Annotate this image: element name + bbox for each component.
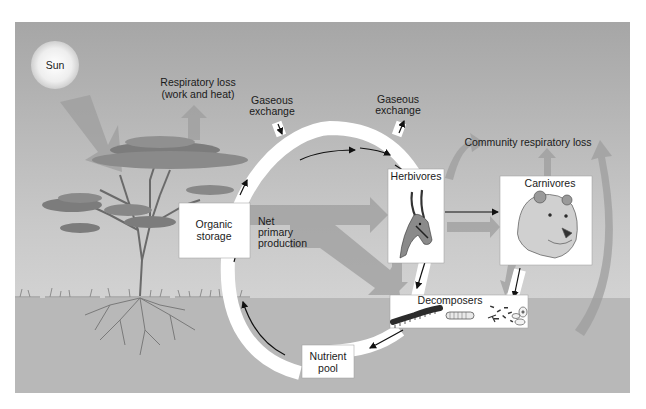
gaseous-exchange-right-label-2: exchange (375, 104, 421, 116)
net-primary-production-label-3: production (258, 237, 307, 249)
carnivores-label: Carnivores (525, 177, 576, 189)
organic-storage-label-1: Organic (196, 218, 233, 230)
community-respiratory-loss-label: Community respiratory loss (464, 136, 591, 148)
respiratory-loss-label-1: Respiratory loss (160, 76, 235, 88)
organic-storage-label-2: storage (196, 230, 231, 242)
sun-label: Sun (46, 59, 65, 71)
decomposers-label: Decomposers (418, 294, 483, 306)
herbivores-label: Herbivores (391, 170, 442, 182)
node-decomposers: Decomposers (390, 294, 528, 328)
sun-icon: Sun (31, 41, 79, 89)
node-organic-storage: Organic storage (179, 203, 250, 258)
nutrient-pool-label-1: Nutrient (310, 350, 347, 362)
gaseous-exchange-left-label-2: exchange (249, 105, 295, 117)
grub-icon (446, 312, 474, 319)
node-carnivores: Carnivores (500, 176, 592, 265)
respiratory-loss-label-2: (work and heat) (162, 88, 235, 100)
nutrient-pool-label-2: pool (318, 362, 338, 374)
node-nutrient-pool: Nutrient pool (302, 345, 354, 378)
ecosystem-diagram: Sun (0, 0, 646, 409)
node-herbivores: Herbivores (388, 169, 444, 263)
